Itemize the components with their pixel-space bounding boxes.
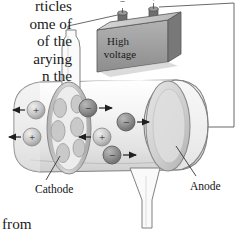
book-line-1: rticles: [0, 0, 72, 15]
tube-bottom-stem: [130, 168, 160, 228]
book-line-2: ome of: [0, 15, 72, 33]
high-voltage-supply: High voltage − +: [97, 0, 181, 77]
anode-label: Anode: [190, 180, 221, 192]
bottom-stem-glass: [130, 168, 160, 228]
book-line-3: of the: [0, 32, 72, 50]
tube-left-end-shade: [14, 82, 40, 172]
figure-canvas: High voltage − +: [0, 0, 237, 234]
terminal-positive-sign: +: [151, 0, 157, 4]
particle-sign-p6: −: [109, 149, 115, 161]
particle-sign-p4: +: [99, 131, 105, 143]
hv-label-line1: High: [107, 35, 130, 47]
particle-sign-p1: +: [33, 104, 39, 116]
hv-label-line2: voltage: [104, 48, 136, 60]
supply-box-side: [168, 12, 181, 62]
cathode-label: Cathode: [35, 183, 73, 195]
book-body-text-top: rticles ome of of the arying n the: [0, 0, 72, 85]
book-line-4: arying: [0, 50, 72, 68]
book-line-5: n the: [0, 67, 72, 85]
book-body-text-bottom: t from: [0, 215, 32, 233]
particle-sign-p2: +: [29, 131, 35, 143]
particle-sign-p5: −: [123, 116, 129, 128]
cathode-disk: [47, 82, 91, 174]
terminal-negative-sign: −: [120, 0, 126, 7]
particle-sign-p3: −: [85, 102, 91, 114]
